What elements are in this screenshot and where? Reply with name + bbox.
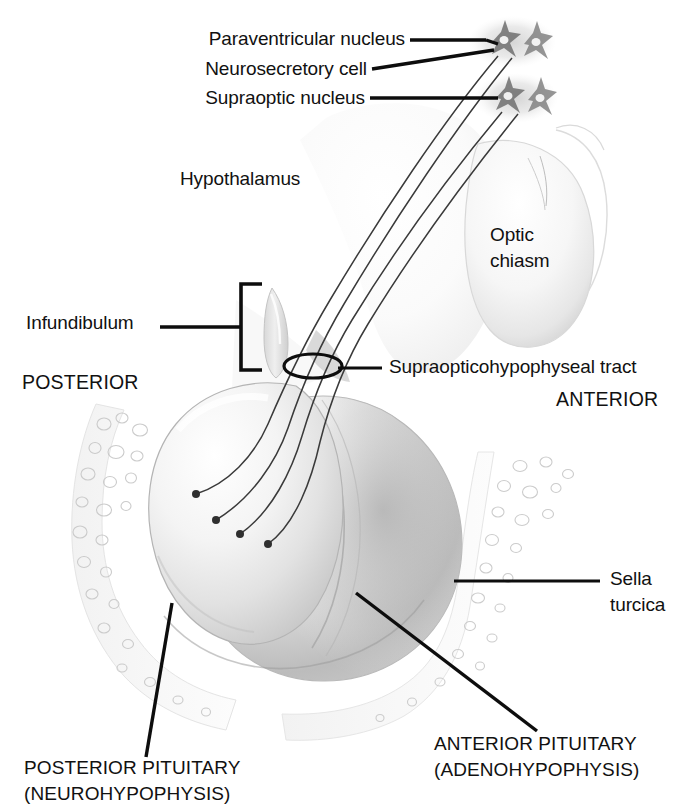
label-anterior-pituitary-line1: ANTERIOR PITUITARY bbox=[434, 733, 637, 755]
label-hypothalamus: Hypothalamus bbox=[180, 168, 300, 190]
optic-chiasm bbox=[465, 125, 607, 347]
label-sella-turcica-line1: Sella bbox=[610, 568, 652, 590]
label-optic-chiasm-line1: Optic bbox=[490, 224, 534, 246]
label-posterior-pituitary-line2: (NEUROHYPOPHYSIS) bbox=[24, 783, 231, 805]
label-optic-chiasm-line2: chiasm bbox=[490, 250, 550, 272]
neurosecretory-cell-leader bbox=[372, 50, 494, 69]
paraventricular-nucleus bbox=[468, 16, 556, 68]
label-posterior-direction: POSTERIOR bbox=[22, 371, 139, 394]
label-supraoptic-nucleus: Supraoptic nucleus bbox=[30, 87, 365, 109]
label-anterior-pituitary-line2: (ADENOHYPOPHYSIS) bbox=[434, 759, 639, 781]
figure-canvas: Paraventricular nucleus Neurosecretory c… bbox=[0, 0, 684, 810]
label-paraventricular-nucleus: Paraventricular nucleus bbox=[30, 28, 405, 50]
label-anterior-direction: ANTERIOR bbox=[556, 388, 658, 411]
posterior-pituitary-lobe bbox=[149, 383, 343, 644]
label-supraopticohypophyseal-tract: Supraopticohypophyseal tract bbox=[389, 356, 637, 378]
label-neurosecretory-cell: Neurosecretory cell bbox=[30, 58, 367, 80]
label-sella-turcica-line2: turcica bbox=[610, 594, 665, 616]
label-infundibulum: Infundibulum bbox=[26, 312, 134, 334]
label-posterior-pituitary-line1: POSTERIOR PITUITARY bbox=[24, 757, 241, 779]
